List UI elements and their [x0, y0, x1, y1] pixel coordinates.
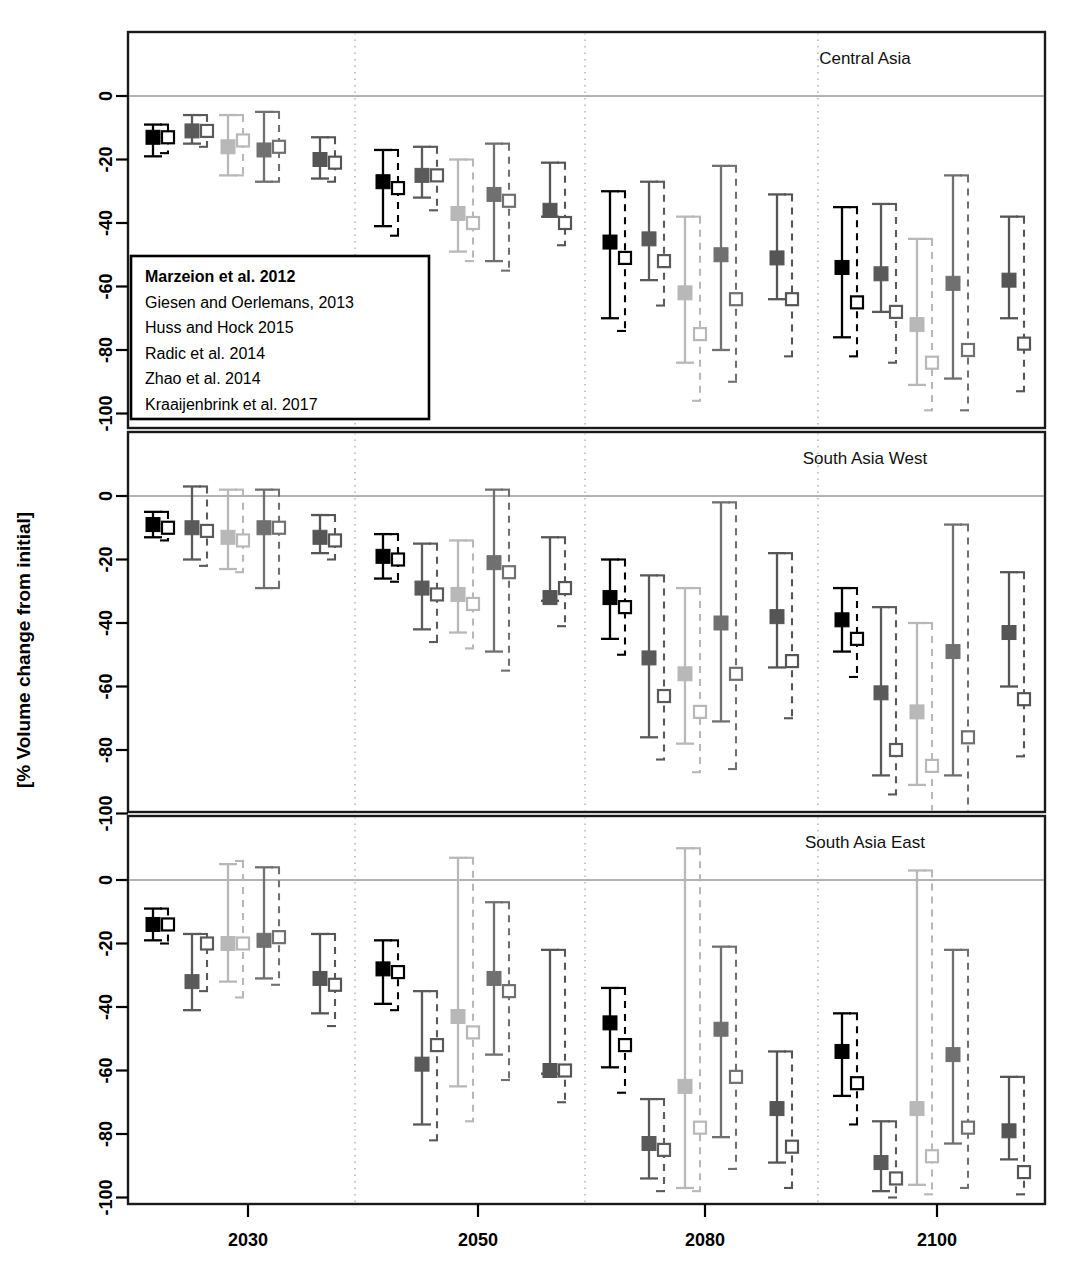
marker-filled-square: [376, 962, 390, 976]
x-axis-tick-label: 2080: [685, 1230, 725, 1250]
marker-filled-square: [910, 1102, 924, 1116]
marker-open-square: [730, 668, 742, 680]
marker-open-square: [786, 655, 798, 667]
y-axis-tick-label: -20: [96, 146, 116, 172]
marker-open-square: [329, 157, 341, 169]
y-axis-tick-label: -20: [96, 930, 116, 956]
marker-filled-square: [415, 581, 429, 595]
marker-filled-square: [257, 143, 271, 157]
marker-open-square: [962, 344, 974, 356]
marker-filled-square: [1002, 1124, 1016, 1138]
marker-open-square: [890, 306, 902, 318]
marker-open-square: [694, 1122, 706, 1134]
marker-open-square: [392, 554, 404, 566]
marker-filled-square: [910, 705, 924, 719]
marker-filled-square: [146, 917, 160, 931]
marker-filled-square: [642, 232, 656, 246]
marker-filled-square: [257, 933, 271, 947]
marker-open-square: [658, 1144, 670, 1156]
marker-filled-square: [642, 651, 656, 665]
figure-root: Central AsiaSouth Asia WestSouth Asia Ea…: [0, 0, 1076, 1274]
marker-filled-square: [313, 153, 327, 167]
marker-filled-square: [910, 318, 924, 332]
marker-open-square: [619, 601, 631, 613]
marker-filled-square: [835, 260, 849, 274]
legend-item-label: Huss and Hock 2015: [145, 319, 294, 336]
marker-open-square: [431, 169, 443, 181]
y-axis-tick-label: -100: [96, 795, 116, 831]
marker-filled-square: [714, 248, 728, 262]
marker-open-square: [658, 690, 670, 702]
marker-filled-square: [221, 530, 235, 544]
marker-open-square: [162, 131, 174, 143]
marker-filled-square: [874, 1156, 888, 1170]
marker-open-square: [890, 1172, 902, 1184]
marker-filled-square: [415, 1057, 429, 1071]
marker-open-square: [431, 588, 443, 600]
glacier-volume-change-figure: Central AsiaSouth Asia WestSouth Asia Ea…: [0, 0, 1076, 1274]
marker-filled-square: [714, 616, 728, 630]
marker-open-square: [730, 1071, 742, 1083]
marker-open-square: [1018, 338, 1030, 350]
y-axis-tick-label: 0: [96, 491, 116, 501]
y-axis-tick-label: -100: [96, 395, 116, 431]
marker-filled-square: [376, 175, 390, 189]
y-axis-tick-label: -40: [96, 210, 116, 236]
marker-open-square: [730, 293, 742, 305]
panel-title: South Asia West: [803, 449, 928, 468]
marker-open-square: [619, 1039, 631, 1051]
marker-filled-square: [543, 203, 557, 217]
x-axis-tick-label: 2100: [917, 1230, 957, 1250]
y-axis-title: [% Volume change from initial]: [13, 512, 34, 788]
y-axis-tick-label: -80: [96, 737, 116, 763]
marker-open-square: [694, 706, 706, 718]
marker-filled-square: [376, 549, 390, 563]
marker-open-square: [926, 357, 938, 369]
marker-open-square: [162, 522, 174, 534]
marker-filled-square: [946, 1048, 960, 1062]
y-axis-tick-label: -40: [96, 610, 116, 636]
marker-open-square: [201, 525, 213, 537]
x-axis-tick-label: 2030: [228, 1230, 268, 1250]
marker-open-square: [467, 1026, 479, 1038]
legend-layer: Marzeion et al. 2012Giesen and Oerlemans…: [131, 256, 429, 419]
marker-filled-square: [770, 251, 784, 265]
y-axis-tick-label: -60: [96, 1057, 116, 1083]
y-axis-tick-label: -60: [96, 673, 116, 699]
legend-item-label: Giesen and Oerlemans, 2013: [145, 294, 354, 311]
marker-filled-square: [603, 1016, 617, 1030]
legend-item-label: Radic et al. 2014: [145, 345, 265, 362]
marker-open-square: [237, 534, 249, 546]
marker-filled-square: [770, 1102, 784, 1116]
marker-open-square: [503, 566, 515, 578]
marker-open-square: [926, 1150, 938, 1162]
marker-filled-square: [487, 556, 501, 570]
marker-filled-square: [185, 975, 199, 989]
marker-open-square: [273, 931, 285, 943]
marker-filled-square: [714, 1022, 728, 1036]
marker-filled-square: [185, 521, 199, 535]
marker-filled-square: [257, 521, 271, 535]
panel-title: South Asia East: [805, 833, 925, 852]
marker-open-square: [237, 134, 249, 146]
y-axis-tick-label: -20: [96, 546, 116, 572]
y-axis-tick-label: 0: [96, 875, 116, 885]
y-axis-tick-label: -60: [96, 273, 116, 299]
marker-open-square: [329, 534, 341, 546]
figure-background: [0, 0, 1076, 1274]
marker-filled-square: [221, 937, 235, 951]
marker-filled-square: [415, 168, 429, 182]
marker-filled-square: [221, 140, 235, 154]
marker-open-square: [273, 141, 285, 153]
marker-open-square: [559, 1065, 571, 1077]
legend-item-label: Marzeion et al. 2012: [145, 268, 295, 285]
marker-filled-square: [678, 1079, 692, 1093]
marker-open-square: [1018, 693, 1030, 705]
marker-filled-square: [313, 971, 327, 985]
y-axis-tick-label: -40: [96, 994, 116, 1020]
marker-open-square: [392, 182, 404, 194]
marker-open-square: [786, 1141, 798, 1153]
marker-open-square: [962, 731, 974, 743]
marker-open-square: [201, 125, 213, 137]
marker-open-square: [467, 598, 479, 610]
